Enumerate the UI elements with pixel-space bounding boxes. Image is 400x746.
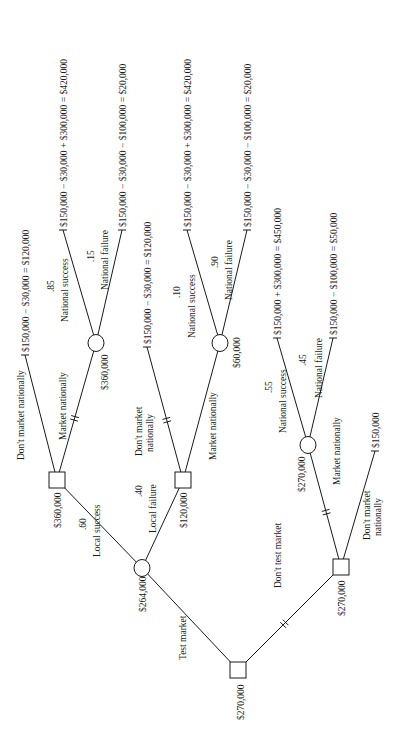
decision-node-icon (175, 472, 191, 488)
expected-value-label: $270,000 (337, 580, 347, 616)
payoff-label: $150,000 (371, 412, 381, 448)
decision-node-icon (49, 472, 65, 488)
payoff-label: $150,000 − $30,000 = $120,000 (143, 221, 153, 344)
branch-line (142, 568, 238, 670)
branch-label: Market nationally (332, 417, 342, 485)
expected-value-label: $270,000 (297, 456, 307, 492)
probability-label: .60 (78, 518, 88, 530)
branch-label: Don't market (362, 490, 372, 540)
expected-value-label: $60,000 (232, 337, 242, 368)
chance-node-icon (300, 437, 316, 454)
expected-value-label: $120,000 (179, 492, 189, 528)
branch-label: Local failure (148, 484, 158, 533)
branch-label: National success (278, 369, 288, 433)
branch-label: nationally (373, 498, 383, 536)
decision-tree-diagram: $150,000 − $30,000 = $120,000$150,000 − … (0, 0, 400, 746)
branch-label: National success (187, 274, 197, 338)
terminals-layer: $150,000 − $30,000 = $120,000$150,000 − … (21, 59, 381, 451)
expected-value-label: $264,000 (138, 576, 148, 612)
branch-label: Don't test market (273, 523, 283, 588)
edges-layer (25, 230, 375, 670)
payoff-label: $150,000 − $30,000 = $120,000 (21, 229, 31, 352)
payoff-label: $150,000 − $30,000 − $100,000 = $20,000 (118, 63, 128, 227)
probability-label: .15 (86, 250, 96, 262)
payoff-label: $150,000 + $300,000 = $450,000 (273, 208, 283, 335)
expected-value-label: $270,000 (236, 684, 246, 720)
probability-label: .45 (298, 354, 308, 366)
branch-label: Market nationally (208, 392, 218, 460)
probability-label: .40 (134, 485, 144, 497)
branch-line (238, 567, 341, 670)
branch-label: Test market (178, 615, 188, 660)
chance-node-icon (88, 335, 104, 352)
branch-label: National success (60, 258, 70, 322)
payoff-label: $150,000 − $30,000 − $100,000 = $20,000 (243, 63, 253, 227)
branch-label: Don't market (134, 406, 144, 456)
branch-label: Local success (92, 504, 102, 557)
branch-label: National failure (100, 230, 110, 290)
branch-label: Don't market nationally (16, 370, 26, 460)
payoff-label: $150,000 − $100,000 = $50,000 (329, 212, 339, 335)
decision-node-icon (333, 559, 349, 575)
chance-node-icon (212, 335, 228, 352)
chance-node-icon (134, 560, 150, 577)
branch-line (147, 347, 183, 480)
probability-label: .10 (172, 286, 182, 298)
payoff-label: $150,000 − $30,000 + $300,000 = $420,000 (183, 59, 193, 227)
expected-value-label: $360,000 (100, 354, 110, 390)
expected-value-label: $360,000 (53, 492, 63, 528)
probability-label: .85 (46, 280, 56, 292)
probability-label: .90 (210, 256, 220, 268)
branch-line (25, 355, 57, 480)
branch-label: National failure (314, 338, 324, 398)
probability-label: .55 (264, 381, 274, 393)
branch-label: Market nationally (58, 372, 68, 440)
branch-label: nationally (145, 414, 155, 452)
payoff-label: $150,000 − $30,000 + $300,000 = $420,000 (59, 59, 69, 227)
branch-label: National failure (224, 240, 234, 300)
decision-node-icon (230, 662, 246, 678)
